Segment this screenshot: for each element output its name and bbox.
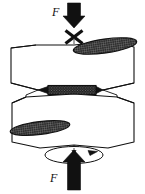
hatched-weld-band [48,86,96,95]
friction-welding-figure: F [0,0,145,194]
force-label-bottom: F [49,171,58,185]
force-label-top: F [51,5,60,19]
lower-cylinder [12,94,134,148]
figure-canvas: F [0,0,145,194]
